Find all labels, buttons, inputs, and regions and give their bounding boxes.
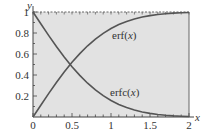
y-tick-label: 0.6	[15, 48, 29, 60]
x-tick-label: 0	[30, 119, 36, 131]
erf-erfc-chart: 00.511.52 0.20.40.60.81 y x erf(x) erfc(…	[0, 0, 210, 139]
x-axis-label: x	[194, 111, 200, 123]
y-tick-label: 0.2	[15, 90, 29, 102]
y-axis-label: y	[26, 0, 32, 11]
x-tick-label: 2	[186, 119, 192, 131]
x-tick-label: 1.5	[143, 119, 157, 131]
erf-label: erf(x)	[112, 29, 137, 42]
y-tick-label: 0.4	[15, 69, 29, 81]
x-tick-label: 1	[108, 119, 114, 131]
x-tick-label: 0.5	[65, 119, 79, 131]
erfc-label: erfc(x)	[110, 86, 140, 99]
y-tick-label: 0.8	[15, 27, 29, 39]
